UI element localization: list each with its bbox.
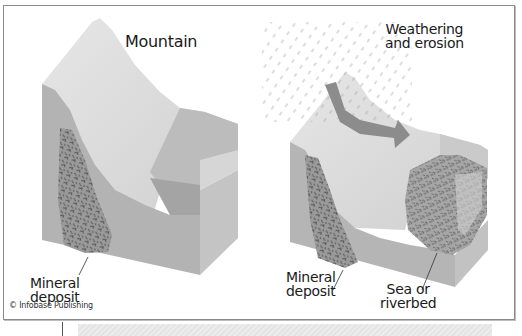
label-line: Mineral [286, 270, 336, 284]
label-line: Sea or [380, 282, 436, 296]
label-line: riverbed [380, 296, 436, 310]
label-line: deposit [286, 284, 336, 298]
copyright-credit: © Infobase Publishing [9, 301, 93, 310]
sea-riverbed-label: Sea or riverbed [380, 282, 436, 310]
divider-line [62, 322, 63, 336]
mineral-deposit-label-right: Mineral deposit [286, 270, 336, 298]
label-line: and erosion [385, 36, 464, 50]
mountain-label: Mountain [125, 35, 197, 49]
mineral-deposit-label-left: Mineral deposit [30, 276, 80, 304]
page-strip [78, 324, 492, 336]
label-line: Mineral [30, 276, 80, 290]
label-line: Weathering [385, 22, 464, 36]
eroded-block [262, 22, 488, 287]
weathering-erosion-label: Weathering and erosion [385, 22, 464, 50]
mountain-block [42, 18, 238, 275]
callout-line [79, 257, 88, 275]
